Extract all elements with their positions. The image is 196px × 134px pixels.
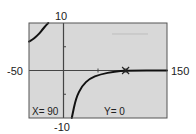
x-min-label: -50 <box>7 65 23 77</box>
y-readout: Y= 0 <box>104 106 125 117</box>
x-readout: X= 90 <box>32 106 59 117</box>
x-max-label: 150 <box>171 65 189 77</box>
y-min-label: -10 <box>54 121 70 133</box>
function-plot: 10 -10 -50 150 X= 90 Y= 0 <box>0 0 196 134</box>
y-max-label: 10 <box>55 10 67 22</box>
